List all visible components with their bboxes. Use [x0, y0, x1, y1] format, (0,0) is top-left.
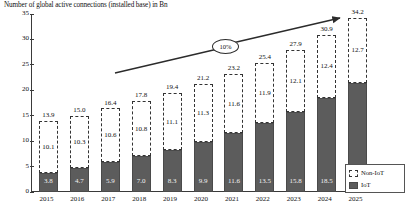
bar-value-total: 15.0	[66, 107, 93, 114]
y-tick-label-10: 10	[7, 137, 29, 144]
bar-segment-iot[interactable]: 18.5	[317, 98, 336, 192]
bar-group[interactable]: 3.810.113.9	[39, 121, 58, 192]
y-tick-label-15: 15	[7, 112, 29, 119]
bar-value-non-iot: 10.6	[102, 132, 119, 139]
cagr-label: 10%	[212, 39, 239, 54]
y-tick-0	[30, 192, 34, 193]
bar-segment-non-iot[interactable]: 12.1	[286, 50, 305, 112]
legend-item-iot[interactable]: IoT	[349, 179, 401, 191]
x-tick-label-2022: 2022	[247, 196, 278, 203]
bar-segment-iot[interactable]: 11.6	[224, 133, 243, 192]
bar-group[interactable]: 4.710.315.0	[70, 116, 89, 192]
chart-title: Number of global active connections (ins…	[4, 1, 167, 9]
bar-value-iot: 4.7	[71, 178, 88, 185]
y-tick-label-35: 35	[7, 10, 29, 17]
bar-value-total: 23.2	[220, 65, 247, 72]
bar-value-non-iot: 11.1	[164, 119, 181, 126]
bar-segment-non-iot[interactable]: 11.3	[194, 84, 213, 141]
bar-value-non-iot: 12.1	[287, 78, 304, 85]
bar-segment-non-iot[interactable]: 12.7	[348, 18, 367, 83]
bar-value-iot: 18.5	[318, 178, 335, 185]
x-tick-label-2019: 2019	[155, 196, 186, 203]
legend-label-iot: IoT	[361, 182, 371, 189]
bar-value-total: 16.4	[97, 100, 124, 107]
bar-segment-iot[interactable]: 3.8	[39, 173, 58, 192]
x-tick-label-2015: 2015	[31, 196, 62, 203]
plot-area: 05101520253035 3.810.113.94.710.315.05.9…	[31, 14, 371, 192]
bar-segment-non-iot[interactable]: 10.8	[132, 101, 151, 156]
bar-group[interactable]: 9.911.321.2	[194, 84, 213, 192]
x-tick-label-2024: 2024	[309, 196, 340, 203]
chart-container: Number of global active connections (ins…	[0, 0, 409, 221]
bar-value-total: 30.9	[313, 26, 340, 33]
bar-value-iot: 7.0	[133, 178, 150, 185]
y-tick-5	[30, 166, 34, 167]
x-tick-label-2021: 2021	[216, 196, 247, 203]
bar-group[interactable]: 18.512.430.9	[317, 35, 336, 192]
bar-segment-iot[interactable]: 13.5	[255, 123, 274, 192]
bar-segment-non-iot[interactable]: 10.1	[39, 121, 58, 172]
bar-value-iot: 5.9	[102, 178, 119, 185]
bar-value-total: 13.9	[35, 112, 62, 119]
bar-value-total: 19.4	[159, 84, 186, 91]
bar-segment-non-iot[interactable]: 11.9	[255, 63, 274, 124]
bar-segment-non-iot[interactable]: 11.6	[224, 74, 243, 133]
bar-segment-iot[interactable]: 7.0	[132, 156, 151, 192]
bar-group[interactable]: 13.511.925.4	[255, 63, 274, 192]
bar-value-iot: 9.9	[195, 178, 212, 185]
bar-segment-non-iot[interactable]: 10.3	[70, 116, 89, 168]
bar-value-total: 27.9	[282, 41, 309, 48]
x-tick-label-2023: 2023	[278, 196, 309, 203]
bar-group[interactable]: 15.812.127.9	[286, 50, 305, 192]
bar-value-non-iot: 12.7	[349, 47, 366, 54]
legend-item-non-iot[interactable]: Non-IoT	[349, 167, 401, 179]
bar-value-total: 21.2	[190, 75, 217, 82]
bar-value-non-iot: 12.4	[318, 63, 335, 70]
bar-value-iot: 11.6	[225, 178, 242, 185]
bar-value-total: 17.8	[128, 92, 155, 99]
bar-segment-iot[interactable]: 9.9	[194, 142, 213, 192]
bar-value-non-iot: 11.3	[195, 110, 212, 117]
y-tick-label-0: 0	[7, 188, 29, 195]
y-tick-label-20: 20	[7, 86, 29, 93]
y-tick-label-5: 5	[7, 163, 29, 170]
bar-segment-iot[interactable]: 8.3	[163, 150, 182, 192]
legend-swatch-iot-icon	[349, 182, 358, 189]
bar-value-total: 25.4	[251, 54, 278, 61]
y-tick-30	[30, 39, 34, 40]
bar-group[interactable]: 7.010.817.8	[132, 101, 151, 192]
y-tick-10	[30, 141, 34, 142]
x-tick-label-2017: 2017	[93, 196, 124, 203]
bar-value-iot: 15.8	[287, 178, 304, 185]
bar-value-non-iot: 10.3	[71, 139, 88, 146]
bar-group[interactable]: 8.311.119.4	[163, 93, 182, 192]
bar-segment-iot[interactable]: 5.9	[101, 162, 120, 192]
y-tick-25	[30, 64, 34, 65]
legend-label-non-iot: Non-IoT	[361, 170, 384, 177]
bar-value-iot: 13.5	[256, 178, 273, 185]
y-tick-35	[30, 14, 34, 15]
y-tick-15	[30, 115, 34, 116]
bar-value-non-iot: 11.6	[225, 101, 242, 108]
bar-value-non-iot: 11.9	[256, 90, 273, 97]
y-tick-20	[30, 90, 34, 91]
bar-segment-iot[interactable]: 15.8	[286, 112, 305, 192]
bar-segment-non-iot[interactable]: 12.4	[317, 35, 336, 98]
x-tick-label-2018: 2018	[124, 196, 155, 203]
bar-segment-non-iot[interactable]: 11.1	[163, 93, 182, 149]
bar-segment-non-iot[interactable]: 10.6	[101, 108, 120, 162]
bar-group[interactable]: 11.611.623.2	[224, 74, 243, 192]
bar-value-iot: 8.3	[164, 178, 181, 185]
bar-group[interactable]: 5.910.616.4	[101, 109, 120, 192]
bar-value-non-iot: 10.8	[133, 126, 150, 133]
chart-legend: Non-IoT IoT	[345, 164, 405, 193]
bar-value-non-iot: 10.1	[40, 144, 57, 151]
legend-swatch-non-iot-icon	[349, 170, 358, 177]
y-tick-label-25: 25	[7, 61, 29, 68]
x-tick-label-2020: 2020	[186, 196, 217, 203]
bar-value-iot: 3.8	[40, 178, 57, 185]
bar-value-total: 34.2	[344, 9, 371, 16]
x-tick-label-2016: 2016	[62, 196, 93, 203]
y-tick-label-30: 30	[7, 35, 29, 42]
bar-segment-iot[interactable]: 4.7	[70, 168, 89, 192]
